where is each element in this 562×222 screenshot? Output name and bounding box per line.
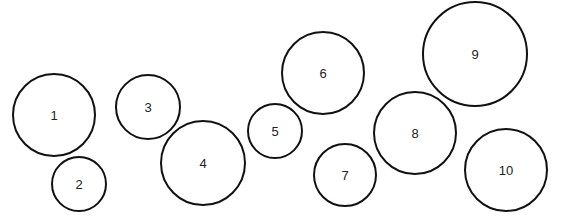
circles-diagram: 1 2 3 4 5 6 7 8 9 10 bbox=[0, 0, 562, 222]
circle-label: 1 bbox=[50, 109, 57, 122]
circle-7: 7 bbox=[313, 143, 377, 207]
circle-label: 6 bbox=[319, 67, 326, 80]
circle-6: 6 bbox=[281, 31, 365, 115]
circle-4: 4 bbox=[160, 120, 246, 206]
circle-10: 10 bbox=[464, 128, 548, 212]
circle-8: 8 bbox=[373, 91, 457, 175]
circle-3: 3 bbox=[115, 74, 181, 140]
circle-label: 9 bbox=[471, 48, 478, 61]
circle-label: 2 bbox=[75, 178, 82, 191]
circle-label: 3 bbox=[144, 101, 151, 114]
circle-label: 7 bbox=[341, 169, 348, 182]
circle-9: 9 bbox=[422, 1, 528, 107]
circle-2: 2 bbox=[51, 156, 107, 212]
circle-label: 8 bbox=[411, 127, 418, 140]
circle-label: 5 bbox=[271, 125, 278, 138]
circle-label: 4 bbox=[199, 157, 206, 170]
circle-1: 1 bbox=[12, 73, 96, 157]
circle-label: 10 bbox=[499, 164, 513, 177]
circle-5: 5 bbox=[247, 103, 303, 159]
